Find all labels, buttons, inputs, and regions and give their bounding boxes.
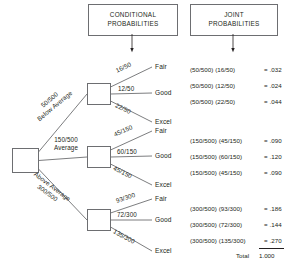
joint-row-value: = .120 (264, 153, 282, 160)
tree-graphics (0, 0, 286, 271)
total-value: 1.000 (259, 252, 274, 259)
prior-label-average-line1: 150/500 (45, 136, 87, 144)
joint-row-expression: (150/500) (45/150) (190, 169, 242, 176)
joint-row-value: = .044 (264, 98, 282, 105)
joint-row-value: = .144 (264, 221, 282, 228)
outcome-average-fair: Fair (155, 127, 167, 134)
outcome-above-average-good: Good (155, 216, 172, 223)
outcome-average-excel: Excel (155, 181, 172, 188)
branch-average-good (111, 156, 153, 157)
cond-label-above-average-good: 72/300 (117, 211, 137, 218)
joint-row-expression: (300/500) (93/300) (190, 205, 242, 212)
joint-row-value: = .090 (264, 137, 282, 144)
outcome-below-average-excel: Excel (155, 118, 172, 125)
joint-row-expression: (50/500) (12/50) (190, 82, 235, 89)
probability-tree-diagram: CONDITIONAL PROBABILITIES JOINT PROBABIL… (0, 0, 286, 271)
outcome-average-good: Good (155, 152, 172, 159)
branch-average (39, 157, 88, 161)
joint-row-value: = .186 (264, 205, 282, 212)
joint-row-expression: (150/500) (45/150) (190, 137, 242, 144)
joint-row-expression: (50/500) (16/50) (190, 66, 235, 73)
outcome-below-average-fair: Fair (155, 63, 167, 70)
outcome-above-average-excel: Excel (155, 247, 172, 254)
prior-label-average-line2: Average (45, 144, 87, 152)
joint-row-value: = .090 (264, 169, 282, 176)
joint-row-expression: (50/500) (22/50) (190, 98, 235, 105)
outcome-below-average-good: Good (155, 89, 172, 96)
cond-label-average-good: 60/150 (117, 148, 137, 155)
joint-row-expression: (300/500) (135/300) (190, 237, 246, 244)
joint-row-value: = .024 (264, 82, 282, 89)
outcome-above-average-fair: Fair (155, 195, 167, 202)
cond-label-below-average-good: 12/50 (118, 85, 134, 92)
joint-row-expression: (150/500) (60/150) (190, 153, 242, 160)
total-rule (259, 248, 284, 249)
total-label: Total (236, 252, 249, 259)
node-below-average-box (88, 84, 111, 105)
joint-row-expression: (300/500) (72/300) (190, 221, 242, 228)
prior-label-average: 150/500 Average (45, 136, 87, 151)
node-average-box (88, 147, 111, 168)
joint-row-value: = .270 (264, 237, 282, 244)
branch-below-average-good (111, 93, 153, 94)
node-above-average-box (88, 210, 111, 231)
joint-row-value: = .032 (264, 66, 282, 73)
